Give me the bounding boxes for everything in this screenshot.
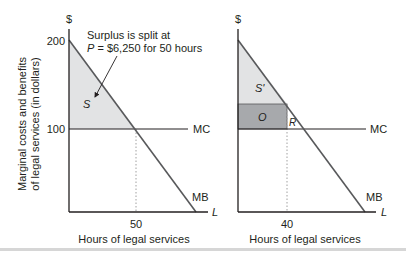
region-label-r: R [289,117,296,128]
diagram-canvas: Marginal costs and benefits of legal ser… [0,0,406,262]
y-tick-200: 200 [47,35,65,47]
y-unit-label: $ [66,13,72,25]
bottom-divider [0,248,406,251]
region-label-s: S [83,98,91,110]
region-label-o: O [258,111,267,123]
y-axis-title: Marginal costs and benefits of legal ser… [16,57,41,191]
mc-label: MC [193,123,210,135]
x-var-label: L [381,206,387,218]
x-var-label: L [212,206,218,218]
x-axis-title: Hours of legal services [78,233,190,245]
x-tick-50: 50 [130,218,142,230]
annotation-line2: P = $6,250 for 50 hours [87,42,203,54]
y-axis-title-line2: of legal services (in dollars) [29,57,41,190]
y-tick-100: 100 [47,123,65,135]
x-tick-40: 40 [281,218,293,230]
region-label-s-prime: S' [255,82,265,94]
mb-label: MB [192,191,209,203]
y-axis-title-line1: Marginal costs and benefits [16,57,28,191]
y-unit-label: $ [235,13,241,25]
mb-label: MB [366,191,383,203]
x-axis-title: Hours of legal services [249,233,361,245]
mc-label: MC [370,123,387,135]
left-panel: $ 200 100 MC MB L 50 Hours of legal serv… [47,13,218,245]
annotation-line1: Surplus is split at [87,29,170,41]
right-panel: $ MC MB L 40 Hours of legal services S' … [235,13,387,245]
